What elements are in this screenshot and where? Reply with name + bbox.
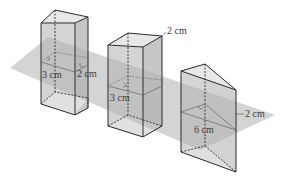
label-prism-1-width: 3 cm: [42, 69, 62, 80]
label-prism-1-depth: 2 cm: [77, 68, 97, 79]
label-tri-prism-base: 6 cm: [194, 124, 214, 135]
label-prism-2-depth: 2 cm: [167, 25, 187, 36]
prisms-plane-diagram: 3 cm 2 cm 2 cm 3 cm 2 cm 6 cm: [0, 0, 291, 182]
label-prism-2-width: 3 cm: [110, 92, 130, 103]
label-tri-prism-height: 2 cm: [245, 108, 265, 119]
leader-line-prism-2-top: [160, 32, 166, 38]
